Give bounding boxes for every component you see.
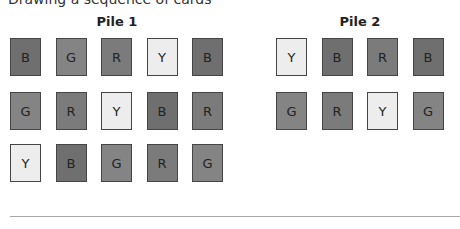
- card: B: [413, 38, 444, 76]
- card: R: [322, 92, 353, 130]
- pile-1-title: Pile 1: [97, 14, 138, 29]
- card: G: [56, 38, 87, 76]
- card: B: [10, 38, 41, 76]
- card: G: [101, 144, 132, 182]
- card: R: [101, 38, 132, 76]
- card: B: [192, 38, 223, 76]
- pile-2-title: Pile 2: [340, 14, 381, 29]
- card: R: [56, 92, 87, 130]
- card: G: [276, 92, 307, 130]
- card: Y: [101, 92, 132, 130]
- card: Y: [367, 92, 398, 130]
- card: G: [413, 92, 444, 130]
- card: R: [147, 144, 178, 182]
- card: Y: [10, 144, 41, 182]
- card: R: [192, 92, 223, 130]
- card: Y: [276, 38, 307, 76]
- card: G: [192, 144, 223, 182]
- card: B: [56, 144, 87, 182]
- card: R: [367, 38, 398, 76]
- divider-line: [10, 216, 460, 217]
- card: G: [10, 92, 41, 130]
- card: Y: [147, 38, 178, 76]
- card: B: [147, 92, 178, 130]
- cutoff-header-text: Drawing a sequence of cards: [8, 0, 212, 7]
- card: B: [322, 38, 353, 76]
